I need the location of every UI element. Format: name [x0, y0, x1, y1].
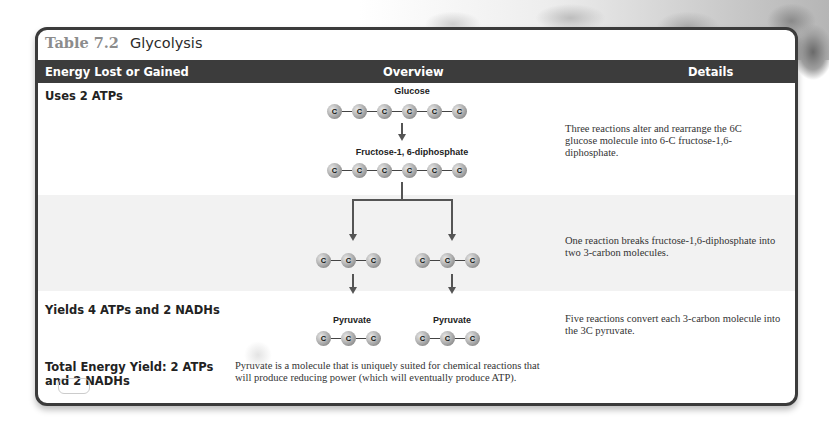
arrow-down-icon [349, 234, 357, 241]
energy-uses-label: Uses 2 ATPs [45, 89, 123, 103]
carbon-atom: C [415, 331, 430, 346]
carbon-atom: C [327, 163, 342, 178]
arrow-down-icon [448, 287, 456, 294]
pyruvate-note: Pyruvate is a molecule that is uniquely … [235, 360, 550, 384]
carbon-atom: C [440, 331, 455, 346]
carbon-atom: C [341, 253, 356, 268]
carbon-atom: C [452, 163, 467, 178]
carbon-atom: C [440, 253, 455, 268]
pyruvate-label-left: Pyruvate [327, 315, 377, 325]
header-details: Details [688, 65, 733, 79]
details-row-1: Three reactions alter and rearrange the … [565, 123, 775, 159]
three-carbon-chain-right: C C C [415, 252, 480, 268]
table-number: Table 7.2 [45, 34, 119, 51]
split-bar [352, 199, 452, 201]
carbon-atom: C [427, 104, 442, 119]
split-stem [401, 182, 403, 200]
carbon-atom: C [465, 331, 480, 346]
arrow-line [451, 274, 453, 288]
carbon-atom: C [452, 104, 467, 119]
carbon-atom: C [341, 331, 356, 346]
carbon-atom: C [377, 163, 392, 178]
carbon-atom: C [316, 253, 331, 268]
carbon-atom: C [327, 104, 342, 119]
carbon-atom: C [402, 163, 417, 178]
arrow-down-icon [398, 134, 406, 141]
three-carbon-chain-left: C C C [316, 252, 381, 268]
split-left-line [352, 199, 354, 235]
header-overview: Overview [383, 65, 444, 79]
energy-yields-label: Yields 4 ATPs and 2 NADHs [45, 303, 220, 317]
table-name: Glycolysis [130, 35, 202, 51]
arrow-down-icon [349, 287, 357, 294]
details-row-2: One reaction breaks fructose-1,6-diphosp… [565, 235, 785, 259]
table-header: Energy Lost or Gained Overview Details [38, 60, 795, 83]
carbon-atom: C [316, 331, 331, 346]
carbon-atom: C [352, 163, 367, 178]
fructose-label: Fructose-1, 6-diphosphate [342, 147, 482, 157]
carbon-atom: C [377, 104, 392, 119]
carbon-atom: C [402, 104, 417, 119]
arrow-down-icon [448, 234, 456, 241]
carbon-atom: C [352, 104, 367, 119]
carbon-atom: C [465, 253, 480, 268]
carbon-atom: C [415, 253, 430, 268]
glucose-chain: C C C C C C [327, 103, 467, 119]
carbon-atom: C [427, 163, 442, 178]
hexagon-decoration-icon [58, 378, 90, 394]
pyruvate-label-right: Pyruvate [427, 315, 477, 325]
carbon-atom: C [366, 253, 381, 268]
details-row-3: Five reactions convert each 3-carbon mol… [565, 313, 790, 337]
table-title: Table 7.2 Glycolysis [45, 34, 202, 51]
split-right-line [451, 199, 453, 235]
glucose-label: Glucose [382, 86, 442, 96]
starburst-decoration-icon [243, 340, 273, 370]
carbon-atom: C [366, 331, 381, 346]
pyruvate-chain-right: C C C [415, 330, 480, 346]
arrow-line [352, 274, 354, 288]
glycolysis-table: Table 7.2 Glycolysis Energy Lost or Gain… [35, 27, 798, 406]
pyruvate-chain-left: C C C [316, 330, 381, 346]
header-energy: Energy Lost or Gained [45, 65, 189, 79]
fructose-chain: C C C C C C [327, 162, 467, 178]
